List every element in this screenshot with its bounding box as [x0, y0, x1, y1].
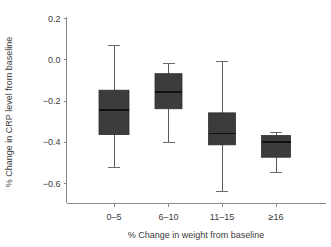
x-tick-label: 6–10 [158, 212, 178, 222]
x-axis-title: % Change in weight from baseline [128, 230, 265, 240]
boxplot-figure: 0.20.0−0.2−0.4−0.6 0–56–1011–15≥16 % Cha… [0, 0, 331, 247]
y-tick-label: −0.6 [43, 179, 61, 189]
box-iqr-rect [209, 113, 236, 145]
y-tick-label: −0.4 [43, 137, 61, 147]
y-tick-label: 0.2 [48, 14, 61, 24]
x-tick-label: ≥16 [269, 212, 284, 222]
box-iqr-rect [262, 136, 291, 158]
box-series-group [99, 45, 291, 192]
y-tick-label: −0.2 [43, 96, 61, 106]
boxplot-item [155, 63, 182, 142]
boxplot-item [209, 61, 236, 191]
box-iqr-rect [155, 74, 182, 109]
y-tick-group: 0.20.0−0.2−0.4−0.6 [43, 14, 67, 189]
boxplot-item [262, 132, 291, 172]
y-axis-title: % Change in CRP level from baseline [4, 37, 14, 187]
x-tick-label: 0–5 [106, 212, 121, 222]
x-tick-label: 11–15 [210, 212, 234, 222]
box-iqr-rect [99, 90, 129, 134]
boxplot-item [99, 45, 129, 167]
x-tick-group: 0–56–1011–15≥16 [106, 204, 283, 223]
boxplot-canvas: 0.20.0−0.2−0.4−0.6 0–56–1011–15≥16 % Cha… [0, 0, 331, 247]
y-tick-label: 0.0 [48, 55, 61, 65]
